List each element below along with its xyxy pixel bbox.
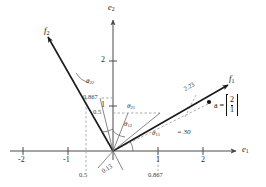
label-theta-21: θ21 (127, 103, 135, 111)
label-x-proj-05: 0.5 (79, 172, 87, 179)
x-axis-label: e1 (242, 145, 249, 155)
f1-label: f1 (229, 74, 235, 84)
label-y-proj-05: 0.5 (93, 109, 101, 116)
label-x-proj-0867: 0.867 (148, 172, 163, 179)
point-a-marker (207, 100, 211, 104)
x-tick-2: 2 (201, 156, 205, 164)
label-theta-12: θ12 (124, 121, 132, 129)
vector-basis-figure: e1 e2 -2 -1 1 2 1 2 f1 f2 0.867 0.5 0.5 … (0, 0, 266, 187)
y-axis-label: e2 (108, 3, 115, 13)
x-tick-minus2: -2 (18, 156, 25, 164)
column-vector-bracket: 2 1 (226, 94, 238, 116)
vector-component-2: 1 (230, 105, 234, 115)
vector-component-1: 2 (230, 95, 234, 105)
f2-label: f2 (44, 26, 50, 36)
y-tick-1: 1 (101, 101, 105, 109)
x-tick-minus1: -1 (63, 156, 70, 164)
x-tick-1: 1 (156, 156, 160, 164)
angle-arcs (76, 73, 133, 151)
label-theta-11: θ11 (152, 130, 160, 138)
label-theta-22: θ22 (86, 78, 94, 86)
x-axis (10, 147, 236, 155)
y-tick-2: 2 (101, 56, 105, 64)
point-a-label: a = (214, 101, 224, 110)
point-a-annotation: a = 2 1 (214, 94, 238, 116)
label-theta-11-value: = 30 (177, 129, 190, 136)
label-y-proj-0867: 0.867 (83, 94, 98, 101)
